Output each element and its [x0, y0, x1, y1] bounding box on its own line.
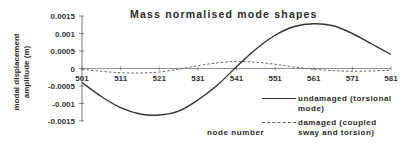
dashed-line-swatch-icon	[262, 118, 296, 125]
y-axis-label-line2: amplitude (m)	[22, 17, 32, 127]
x-tick-label: 571	[346, 74, 360, 83]
x-tick-label: 561	[307, 74, 321, 83]
legend: undamaged (torsional mode) damaged (coup…	[262, 94, 398, 142]
y-tick-label: 0.001	[55, 30, 76, 39]
y-tick-label: -0.0005	[48, 82, 76, 91]
legend-label: damaged (coupled sway and torsion)	[298, 118, 398, 138]
y-axis-label: modal displacement amplitude (m)	[2, 22, 42, 122]
solid-line-swatch-icon	[262, 94, 296, 101]
y-tick-label: 0.0015	[51, 12, 76, 21]
x-tick-label: 511	[114, 74, 127, 83]
x-axis-label: node number	[207, 128, 264, 137]
x-tick-label: 501	[75, 74, 89, 83]
x-tick-label: 541	[230, 74, 244, 83]
y-tick-label: 0	[71, 65, 76, 74]
x-tick-label: 551	[268, 74, 282, 83]
legend-item-damaged: damaged (coupled sway and torsion)	[262, 118, 398, 138]
legend-item-undamaged: undamaged (torsional mode)	[262, 94, 398, 114]
legend-label: undamaged (torsional mode)	[298, 94, 398, 114]
x-tick-label: 581	[384, 74, 398, 83]
y-tick-label: -0.0015	[48, 117, 76, 126]
x-tick-label: 531	[191, 74, 205, 83]
chart-title: Mass normalised mode shapes	[130, 8, 318, 20]
y-tick-label: -0.001	[52, 100, 75, 109]
y-tick-label: 0.0005	[51, 47, 76, 56]
x-tick-label: 521	[153, 74, 167, 83]
y-axis-label-line1: modal displacement	[12, 17, 22, 127]
